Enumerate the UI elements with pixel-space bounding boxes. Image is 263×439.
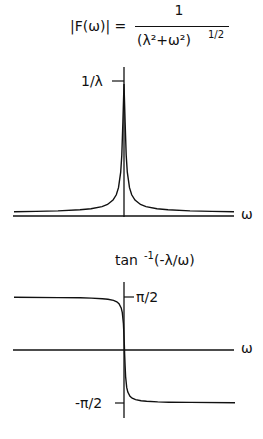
phase-title-sup: -1 xyxy=(144,249,154,263)
magnitude-title-lhs: |F(ω)| = xyxy=(70,19,126,33)
magnitude-exponent: 1/2 xyxy=(208,28,224,42)
bottom-ytick-bottom-label: -π/2 xyxy=(75,396,102,410)
top-ytick-label: 1/λ xyxy=(81,74,103,88)
magnitude-numerator: 1 xyxy=(140,3,218,17)
figure-canvas xyxy=(0,0,263,439)
top-xlabel: ω xyxy=(241,207,253,221)
magnitude-plot xyxy=(13,67,234,217)
phase-title-arg: (-λ/ω) xyxy=(154,253,195,267)
bottom-ytick-top-label: π/2 xyxy=(136,290,158,304)
fraction-bar xyxy=(135,26,229,27)
magnitude-title-fraction: 1 xyxy=(140,3,218,17)
bottom-xlabel: ω xyxy=(241,341,253,355)
phase-plot xyxy=(13,282,235,418)
magnitude-denominator: (λ²+ω²) xyxy=(137,33,191,47)
phase-title-base: tan xyxy=(115,253,138,267)
